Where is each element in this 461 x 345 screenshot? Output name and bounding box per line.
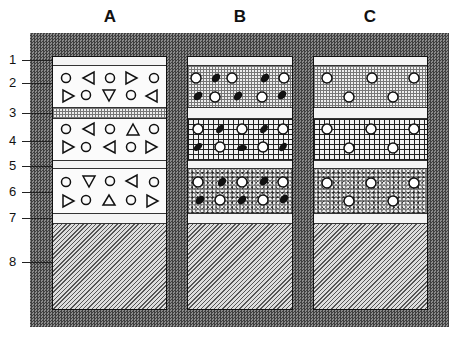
column-label-b: B — [220, 7, 260, 27]
layer-label-8: 8 — [9, 254, 16, 269]
layer-label-1: 1 — [9, 52, 16, 67]
layer-6 — [314, 169, 427, 214]
layer-1 — [314, 57, 427, 66]
layer-7 — [53, 214, 166, 224]
layer-label-5: 5 — [9, 158, 16, 173]
column-a — [52, 56, 167, 310]
leader-line — [22, 60, 54, 61]
leader-line — [22, 166, 54, 167]
leader-line — [22, 218, 54, 219]
layer-3 — [188, 108, 292, 119]
leader-line — [22, 192, 54, 193]
grain-symbols — [314, 119, 428, 161]
column-label-c: C — [350, 7, 390, 27]
leader-line — [22, 83, 54, 84]
layer-1 — [53, 57, 166, 66]
grain-symbols — [188, 169, 293, 214]
layer-label-3: 3 — [9, 105, 16, 120]
leader-line — [22, 141, 54, 142]
layer-label-2: 2 — [9, 75, 16, 90]
layer-7 — [314, 214, 427, 224]
layer-8 — [314, 224, 427, 310]
layer-4 — [314, 119, 427, 161]
grain-symbols — [314, 169, 428, 214]
layer-5 — [53, 161, 166, 169]
grain-symbols — [53, 119, 167, 161]
layer-8 — [53, 224, 166, 310]
layer-1 — [188, 57, 292, 66]
layer-7 — [188, 214, 292, 224]
leader-line — [22, 262, 54, 263]
layer-5 — [188, 161, 292, 169]
layer-4 — [188, 119, 292, 161]
grain-symbols — [188, 66, 293, 108]
column-label-a: A — [90, 7, 130, 27]
layer-3 — [53, 108, 166, 119]
grain-symbols — [53, 66, 167, 108]
layer-3 — [314, 108, 427, 119]
layer-2 — [314, 66, 427, 108]
column-b — [187, 56, 293, 310]
layer-label-7: 7 — [9, 210, 16, 225]
layer-2 — [188, 66, 292, 108]
grain-symbols — [53, 169, 167, 214]
layer-8 — [188, 224, 292, 310]
layer-label-4: 4 — [9, 133, 16, 148]
leader-line — [22, 113, 54, 114]
grain-symbols — [188, 119, 293, 161]
column-c — [313, 56, 428, 310]
layer-5 — [314, 161, 427, 169]
layer-4 — [53, 119, 166, 161]
layer-2 — [53, 66, 166, 108]
grain-symbols — [314, 66, 428, 108]
layer-6 — [188, 169, 292, 214]
layer-6 — [53, 169, 166, 214]
layer-label-6: 6 — [9, 184, 16, 199]
